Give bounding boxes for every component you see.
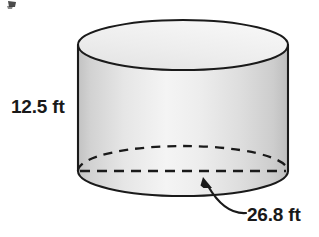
height-label: 12.5 ft [11, 97, 65, 116]
cropped-text-artifact [7, 1, 16, 9]
cylinder-figure: 12.5 ft 26.8 ft [0, 0, 319, 237]
cylinder-diagram [0, 0, 319, 237]
diameter-label: 26.8 ft [247, 205, 301, 224]
cylinder-top-face [78, 20, 288, 70]
